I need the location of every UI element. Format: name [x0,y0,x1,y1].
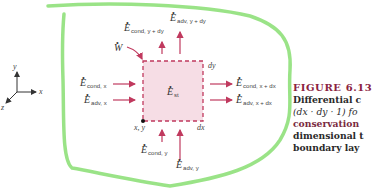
e-adv-x-label: •Eadv, x [84,95,107,105]
caption-line: conservation [293,118,373,130]
caption-line: Differential c [293,94,373,106]
figure-number: FIGURE 6.13 [293,82,373,93]
origin-label: x, y [134,124,145,132]
e-cond-x-dx-label: •Econd, x + dx [236,78,276,88]
stored-energy-label: •Est [167,87,179,97]
axis-y-label: y [13,63,17,71]
e-adv-y-dy-label: •Eadv, y + dy [170,13,206,23]
dy-label: dy [208,62,216,70]
e-adv-y-label: •Eadv, y [176,160,199,170]
figure-caption: FIGURE 6.13 Differential c (dx · dy · 1)… [293,82,373,154]
dx-label: dx [197,124,205,132]
e-cond-y-dy-label: •Econd, y + dy [124,23,164,33]
e-cond-y-label: •Econd, y [141,145,167,155]
caption-line: boundary lay [293,142,373,154]
e-adv-x-dx-label: •Eadv, x + dx [236,95,272,105]
axis-z-label: z [1,104,4,112]
work-label: •W [114,43,122,53]
axis-x-label: x [39,88,43,96]
e-cond-x-label: •Econd, x [80,78,106,88]
axes-triad-icon [6,72,36,103]
caption-line: dimensional t [293,130,373,142]
caption-line: (dx · dy · 1) fo [293,106,373,118]
